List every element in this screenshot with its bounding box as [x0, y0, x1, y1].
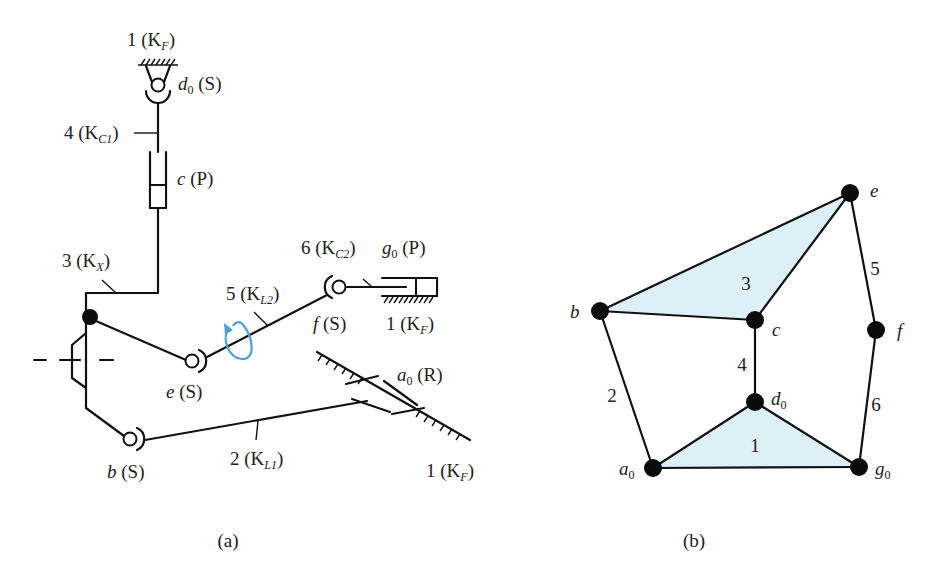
label-ground-f: 1 (KF) [386, 313, 434, 337]
link-5-leader [254, 312, 268, 326]
link-3-triangle [600, 193, 850, 320]
graph-link-label-2: 2 [607, 385, 617, 406]
spherical-joint-b-icon [124, 428, 145, 450]
link-3-leader [102, 280, 116, 293]
mechanism-figure: 1 (KF) d0 (S) 4 (KC1) c (P) 3 (KX) 6 (KC… [0, 0, 939, 578]
node-label-b: b [570, 301, 580, 322]
node-label-f: f [897, 320, 905, 341]
graph-link-label-5: 5 [870, 258, 880, 279]
label-joint-a0: a0 (R) [397, 364, 443, 388]
graph-link-label-4: 4 [737, 354, 747, 375]
label-joint-d0: d0 (S) [178, 73, 221, 97]
graph-link-label-6: 6 [871, 394, 881, 415]
prismatic-joint-c-icon [150, 152, 166, 208]
node-label-e: e [870, 180, 878, 201]
graph-node-a0 [644, 459, 662, 477]
spherical-joint-d0-icon [146, 79, 170, 104]
label-joint-b: b (S) [107, 461, 144, 483]
label-ground-a0: 1 (KF) [426, 460, 474, 484]
label-joint-e: e (S) [166, 381, 202, 403]
node-label-g0: g0 [875, 458, 891, 482]
spherical-joint-f-icon [325, 276, 346, 298]
label-joint-f: f (S) [313, 313, 346, 335]
graph-node-b [591, 302, 609, 320]
link-2-leader [256, 421, 258, 440]
label-link-5: 5 (KL2) [226, 283, 279, 307]
panel-b-graph: 354261 e b c f d0 a0 g0 (b) [570, 180, 905, 552]
label-link-3: 3 (KX) [62, 250, 110, 274]
label-joint-g0: g0 (P) [382, 237, 425, 261]
caption-a: (a) [217, 530, 238, 552]
graph-link-label-3: 3 [741, 273, 751, 294]
prismatic-joint-g0-icon [382, 278, 437, 303]
link-3-arm-b [86, 408, 124, 436]
node-label-d0: d0 [771, 388, 787, 412]
label-joint-c: c (P) [177, 168, 213, 190]
panel-a-mechanism: 1 (KF) d0 (S) 4 (KC1) c (P) 3 (KX) 6 (KC… [34, 29, 474, 552]
spherical-joint-e-icon [186, 350, 207, 372]
graph-node-e [841, 184, 859, 202]
node-label-a0: a0 [619, 458, 635, 482]
label-link-2: 2 (KL1) [230, 448, 283, 472]
graph-link-label-1: 1 [750, 435, 760, 456]
revolute-joint-a0-icon [317, 352, 470, 440]
label-ground-top: 1 (KF) [127, 29, 175, 53]
link-3-arm-e [96, 321, 186, 360]
graph-edge-a0-g0 [653, 467, 859, 468]
graph-node-g0 [850, 458, 868, 476]
label-link-6: 6 (KC2) [301, 237, 356, 261]
node-label-c: c [772, 319, 781, 340]
label-link-4: 4 (KC1) [64, 122, 119, 146]
graph-node-d0 [746, 393, 764, 411]
graph-node-c [746, 311, 764, 329]
link-6-leader [363, 279, 372, 287]
caption-b: (b) [683, 530, 705, 552]
link-3-joint-dot [82, 309, 98, 325]
graph-node-f [867, 321, 885, 339]
